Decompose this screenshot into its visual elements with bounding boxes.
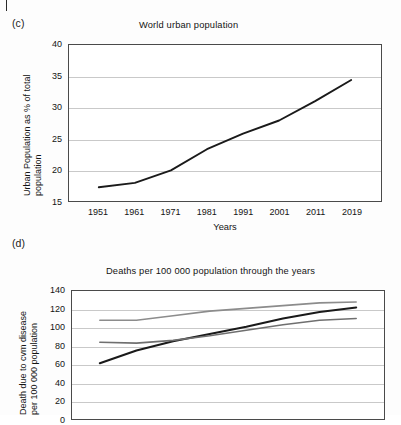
y-tick-label: 15 xyxy=(34,197,62,207)
y-axis-label-c-line2: population xyxy=(33,154,44,196)
series-line xyxy=(100,302,356,320)
y-axis-label-d-line2: per 100 000 population xyxy=(29,323,40,415)
x-tick-label: 2011 xyxy=(306,207,325,217)
chart-title-c: World urban population xyxy=(139,20,238,30)
x-tick-label: 1971 xyxy=(161,207,181,217)
x-tick-label: 1991 xyxy=(233,207,253,217)
series-lines-d xyxy=(72,291,384,419)
y-tick-label: 40 xyxy=(37,378,65,388)
y-tick-label: 35 xyxy=(34,71,62,81)
x-axis-label-c: Years xyxy=(213,222,236,232)
crop-mark xyxy=(6,0,7,11)
panel-label-d: (d) xyxy=(12,237,25,249)
x-tick-label: 1961 xyxy=(124,207,144,217)
y-tick-label: 140 xyxy=(37,285,65,295)
series-lines-c xyxy=(69,45,381,201)
x-tick-label: 1951 xyxy=(88,207,108,217)
series-line xyxy=(99,80,351,187)
x-tick-label: 1981 xyxy=(197,207,217,217)
y-tick-label: 20 xyxy=(37,396,65,406)
plot-area-d xyxy=(71,290,385,420)
y-axis-label-c-line1: Urban Population as % of total xyxy=(22,74,33,196)
plot-area-c xyxy=(68,44,382,202)
panel-label-c: (c) xyxy=(12,17,25,29)
y-tick-label: 80 xyxy=(37,341,65,351)
y-axis-label-d-line1: Death due to cvm disease xyxy=(18,311,29,415)
y-tick-label: 100 xyxy=(37,322,65,332)
series-line xyxy=(100,307,356,363)
y-tick-label: 60 xyxy=(37,359,65,369)
y-tick-label: 25 xyxy=(34,134,62,144)
x-tick-label: 2019 xyxy=(342,207,362,217)
y-tick-label: 0 xyxy=(37,415,65,425)
chart-title-d: Deaths per 100 000 population through th… xyxy=(106,266,315,276)
y-tick-label: 30 xyxy=(34,102,62,112)
y-tick-label: 40 xyxy=(34,39,62,49)
y-tick-label: 120 xyxy=(37,304,65,314)
x-tick-label: 2001 xyxy=(269,207,289,217)
